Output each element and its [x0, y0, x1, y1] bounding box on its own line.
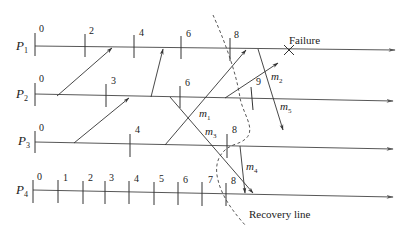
failure-label: Failure	[289, 34, 320, 46]
checkpoints-p2: 0 3 6 9	[35, 73, 261, 110]
message-m4	[240, 146, 245, 193]
process-p2: P2 0 3 6 9	[15, 73, 393, 110]
checkpoint-label: 0	[39, 122, 44, 133]
timeline-p4	[33, 190, 393, 197]
checkpoint-label: 4	[139, 27, 144, 38]
checkpoint-label: 8	[234, 29, 239, 40]
process-label-p1: P1	[15, 38, 28, 55]
timeline-p1	[35, 46, 395, 50]
checkpoint-label: 3	[109, 172, 114, 183]
checkpoint-label: 3	[111, 75, 116, 86]
message-m5	[258, 49, 283, 130]
message-label-m4: m4	[246, 160, 258, 175]
recovery-line-label: Recovery line	[249, 208, 311, 220]
checkpoint-label: 6	[186, 28, 191, 39]
checkpoints-p4: 0 1 2 3 4 5 6 7 8	[33, 171, 236, 206]
checkpoint-label: 1	[63, 172, 68, 183]
checkpoint-label: 0	[39, 73, 44, 84]
process-p1: P1 0 2 4 6 8	[15, 23, 395, 61]
checkpoint-label: 8	[231, 175, 236, 186]
checkpoint-label: 7	[208, 174, 213, 185]
checkpoint-label: 4	[135, 124, 140, 135]
checkpoint-label: 6	[183, 174, 188, 185]
timeline-p2	[35, 94, 393, 101]
process-label-p4: P4	[15, 182, 28, 199]
checkpoint-label: 4	[134, 173, 139, 184]
message-label-m3: m3	[205, 125, 217, 140]
checkpoint-label: 9	[256, 76, 261, 87]
process-label-p2: P2	[15, 86, 28, 103]
checkpoint-label: 5	[159, 173, 164, 184]
checkpoint-label: 6	[185, 77, 190, 88]
checkpoint-label: 0	[37, 171, 42, 182]
failure-marker: Failure	[284, 34, 320, 55]
checkpoint-label: 8	[232, 124, 237, 135]
checkpoint-label: 0	[39, 23, 44, 34]
checkpoints-p1: 0 2 4 6 8	[35, 23, 239, 61]
process-p4: P4 0 1 2 3 4 5 6 7 8	[15, 171, 393, 206]
message-arrow	[74, 98, 129, 143]
message-label-m5: m5	[280, 100, 292, 115]
message-label-m2: m2	[271, 70, 283, 85]
checkpoint-label: 2	[88, 172, 93, 183]
process-label-p3: P3	[17, 133, 30, 150]
checkpoint-recovery-diagram: P1 0 2 4 6 8 P2 0 3 6 9 P	[0, 0, 412, 235]
message-arrow	[151, 49, 163, 97]
message-label-m1: m1	[199, 107, 211, 122]
checkpoint-label: 2	[89, 25, 94, 36]
